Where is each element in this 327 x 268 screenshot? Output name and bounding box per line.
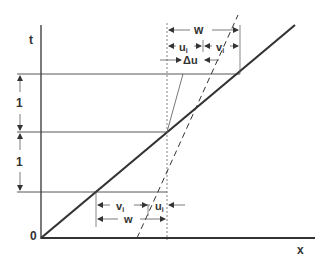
bottom-w-label: w bbox=[123, 213, 133, 225]
origin-label: 0 bbox=[30, 229, 37, 243]
interval-label-lower: 1 bbox=[16, 155, 23, 169]
t-axis-label: t bbox=[29, 33, 33, 47]
delta-u-label: Δu bbox=[183, 54, 198, 66]
main-trajectory-line bbox=[41, 25, 295, 238]
bottom-vi-label: vi bbox=[116, 200, 124, 213]
top-vi-label: vi bbox=[216, 41, 224, 54]
x-axis-label: x bbox=[297, 243, 304, 257]
top-ui-label: ui bbox=[179, 41, 188, 54]
interval-label-upper: 1 bbox=[16, 96, 23, 110]
top-w-label: w bbox=[193, 23, 204, 37]
bottom-ui-label: ui bbox=[155, 200, 164, 213]
thin-slope-line bbox=[167, 74, 183, 132]
space-time-diagram: t x 0 1 1 w ui vi Δu vi ui w bbox=[0, 0, 327, 268]
